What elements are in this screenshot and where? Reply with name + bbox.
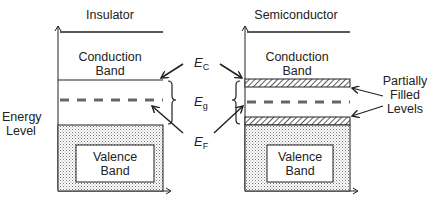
band-gap-brace xyxy=(232,81,240,124)
conduction-band-label: Conduction xyxy=(78,50,141,64)
insulator-title: Insulator xyxy=(86,8,134,22)
conduction-band-label: Conduction xyxy=(265,50,328,64)
valence-band-label: Band xyxy=(285,164,314,178)
conduction-band-label: Band xyxy=(282,64,311,78)
partially-filled-upper xyxy=(245,79,350,87)
valence-band-label: Band xyxy=(100,164,129,178)
partially-filled-label: Partially xyxy=(383,74,428,88)
energy-axis-label: Level xyxy=(6,124,36,138)
partially-filled-label: Levels xyxy=(387,102,423,116)
ec-symbol: EC xyxy=(194,55,210,72)
partially-filled-arrow-icon xyxy=(352,106,383,116)
semiconductor-panel: Semiconductor Conduction Band Valence Ba… xyxy=(232,8,428,194)
partially-filled-arrow-icon xyxy=(352,88,383,96)
ef-symbol: EF xyxy=(194,134,209,151)
partially-filled-label: Filled xyxy=(390,88,420,102)
conduction-band-label: Band xyxy=(95,64,124,78)
semiconductor-title: Semiconductor xyxy=(254,8,337,22)
band-gap-brace xyxy=(168,81,176,124)
partially-filled-lower xyxy=(245,117,350,125)
valence-band-label: Valence xyxy=(93,150,137,164)
ec-arrow-right-icon xyxy=(220,64,242,78)
ec-arrow-left-icon xyxy=(161,64,183,78)
band-diagram: Insulator Conduction Band Valence Band E… xyxy=(0,0,444,205)
energy-axis-label: Energy xyxy=(2,110,42,124)
valence-band-label: Valence xyxy=(278,150,322,164)
insulator-panel: Insulator Conduction Band Valence Band xyxy=(55,8,176,194)
eg-symbol: Eg xyxy=(194,94,208,111)
ef-arrow-right-icon xyxy=(214,106,243,133)
energy-symbols: EC Eg EF xyxy=(152,55,243,151)
